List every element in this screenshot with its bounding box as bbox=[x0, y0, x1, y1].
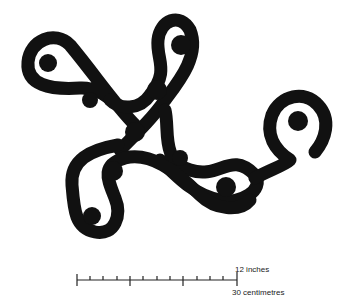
cup-mark bbox=[288, 111, 308, 131]
cup-mark bbox=[82, 92, 98, 108]
scale-bar: 12 inches 30 centimetres bbox=[0, 255, 360, 303]
scale-ruler bbox=[0, 255, 360, 303]
cup-mark bbox=[125, 122, 145, 142]
scale-centimetres-label: 30 centimetres bbox=[232, 288, 284, 297]
cup-mark bbox=[39, 54, 57, 72]
arm-right-hook bbox=[255, 96, 326, 178]
cup-mark bbox=[147, 80, 167, 100]
cup-mark bbox=[172, 150, 188, 166]
cup-mark bbox=[216, 177, 236, 197]
cup-mark bbox=[103, 161, 123, 181]
spiral-motif-drawing bbox=[0, 0, 360, 260]
cup-mark bbox=[83, 207, 101, 225]
scale-inches-label: 12 inches bbox=[235, 265, 269, 274]
cup-mark bbox=[171, 35, 191, 55]
